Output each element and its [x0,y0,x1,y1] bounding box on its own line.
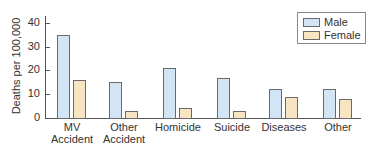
y-tick-label: 40 [20,16,40,28]
bar-female-mv-accident [73,80,86,119]
y-tick-label: 10 [20,87,40,99]
y-tick [45,118,50,119]
legend-swatch-male [303,18,320,27]
x-tick-label: Diseases [254,121,314,133]
x-tick-label: Homicide [148,121,208,133]
bar-female-suicide [233,111,246,119]
bar-male-other [323,89,336,119]
bar-chart: Deaths per 100,000 010203040 MVAccidentO… [0,0,377,154]
bar-female-other [339,99,352,119]
bar-female-diseases [285,97,298,119]
x-tick-label: OtherAccident [94,121,154,145]
legend-label-male: Male [324,16,348,28]
legend: Male Female [297,12,366,44]
bar-male-other-accident [109,82,122,119]
y-tick [45,70,50,71]
bar-female-homicide [179,108,192,119]
bar-male-diseases [269,89,282,119]
x-tick-label: Other [308,121,368,133]
y-tick [45,23,50,24]
y-tick [45,47,50,48]
bar-male-suicide [217,78,230,119]
y-tick-label: 0 [20,111,40,123]
bar-male-homicide [163,68,176,119]
x-tick-label: Suicide [202,121,262,133]
bar-female-other-accident [125,111,138,119]
y-axis-line [45,16,46,119]
x-axis-line [45,118,361,119]
bar-male-mv-accident [57,35,70,119]
y-tick-label: 20 [20,63,40,75]
y-tick [45,94,50,95]
legend-label-female: Female [324,29,361,41]
legend-swatch-female [303,31,320,40]
x-tick-label: MVAccident [42,121,102,145]
legend-item-male: Male [303,16,348,28]
legend-item-female: Female [303,29,361,41]
y-tick-label: 30 [20,40,40,52]
